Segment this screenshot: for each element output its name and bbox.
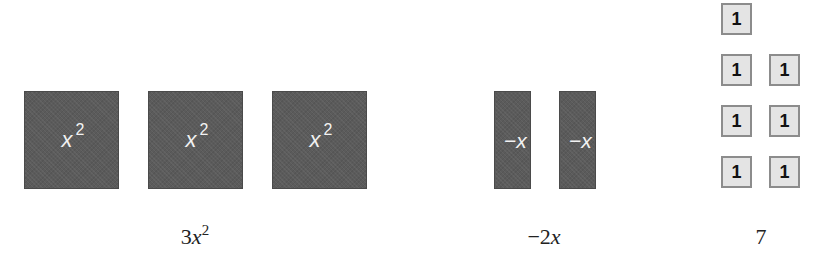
negative-x-tile-label: −x: [569, 130, 592, 151]
unit-group-label: 7: [701, 226, 821, 248]
negative-x-tile: −x: [559, 91, 596, 189]
x-squared-tile: x2: [24, 91, 119, 189]
unit-tile: 1: [769, 156, 800, 188]
x-squared-group-label: 3x2: [135, 226, 255, 248]
unit-tile: 1: [769, 105, 800, 137]
unit-tile: 1: [721, 54, 752, 86]
negative-x-group-label: −2x: [484, 226, 604, 248]
unit-tile: 1: [721, 3, 752, 35]
x-squared-tile: x2: [272, 91, 367, 189]
x-squared-tile: x2: [148, 91, 243, 189]
negative-x-tile: −x: [494, 91, 531, 189]
x-squared-tile-label: x2: [186, 129, 206, 151]
unit-tile: 1: [721, 156, 752, 188]
x-squared-tile-label: x2: [310, 129, 330, 151]
x-squared-tile-label: x2: [62, 129, 82, 151]
unit-tile: 1: [721, 105, 752, 137]
negative-x-tile-label: −x: [504, 130, 527, 151]
unit-tile: 1: [769, 54, 800, 86]
